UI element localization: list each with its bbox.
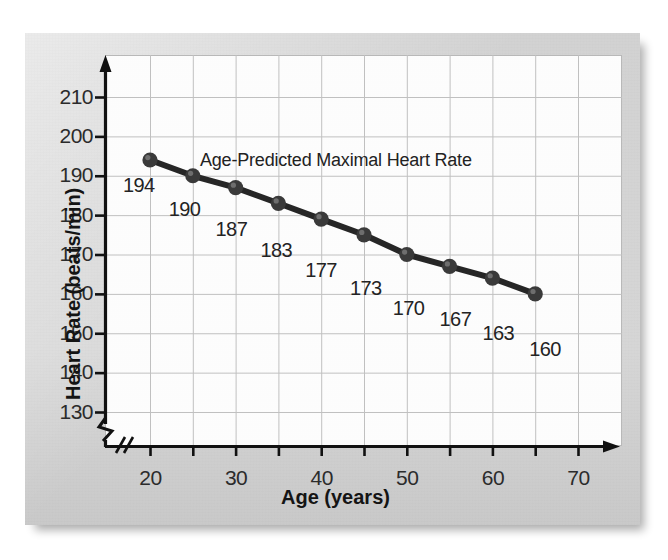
x-tick-label: 30 (211, 466, 261, 490)
x-tick-label: 20 (126, 466, 176, 490)
y-axis-title: Heart Rate (beats/min) (62, 188, 85, 400)
x-tick-label: 60 (468, 466, 518, 490)
data-point-label: 190 (169, 198, 201, 221)
figure-page: 130140150160170180190200210 203040506070… (0, 0, 668, 560)
data-point-label: 177 (305, 259, 337, 282)
y-tick-label: 190 (49, 163, 93, 187)
data-point-label: 163 (482, 322, 514, 345)
data-point-label: 183 (260, 239, 292, 262)
data-point-label: 160 (529, 338, 561, 361)
x-axis-title: Age (years) (281, 486, 390, 509)
data-point-label: 173 (350, 277, 382, 300)
y-tick-label: 130 (49, 400, 93, 424)
data-point-label: 194 (123, 174, 155, 197)
chart-title: Age-Predicted Maximal Heart Rate (200, 150, 472, 171)
data-point-label: 187 (216, 218, 248, 241)
y-tick-label: 200 (49, 124, 93, 148)
plot-area (105, 55, 622, 446)
x-tick-label: 70 (554, 466, 604, 490)
data-point-label: 167 (440, 308, 472, 331)
data-point-label: 170 (393, 297, 425, 320)
y-tick-label: 210 (49, 85, 93, 109)
